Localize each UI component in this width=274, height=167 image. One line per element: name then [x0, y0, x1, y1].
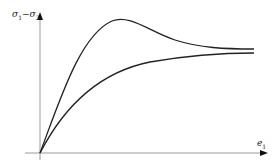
peak-curve [40, 19, 254, 153]
x-axis-label: e1 [257, 138, 266, 150]
monotonic-curve [40, 53, 254, 153]
x-axis-arrow-icon [260, 150, 268, 156]
stress-strain-diagram [0, 0, 274, 167]
y-axis-label: σ1−σ3 [12, 9, 40, 21]
